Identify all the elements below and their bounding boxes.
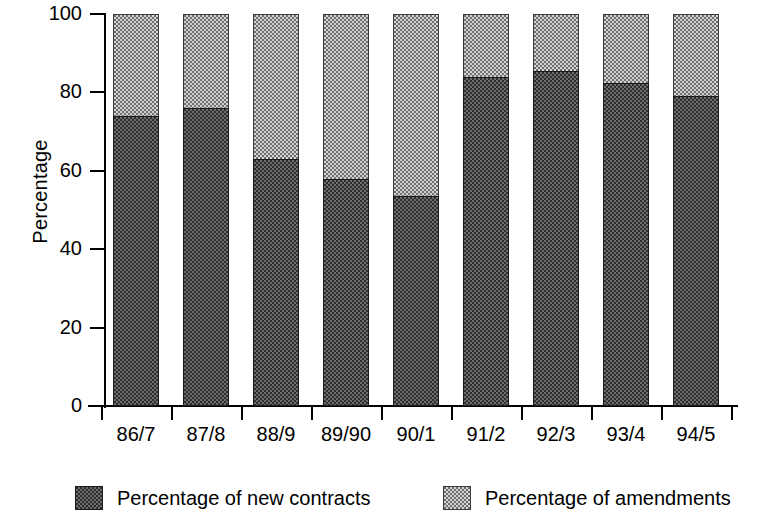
bar-segment-amendments[interactable] (463, 14, 509, 78)
y-tick-label: 40 (10, 238, 82, 258)
y-tick-label: 60 (10, 160, 82, 180)
bar-group[interactable] (463, 14, 509, 406)
legend-label-new-contracts: Percentage of new contracts (117, 487, 370, 510)
y-axis-title: Percentage (29, 92, 52, 292)
y-tick-mark (90, 170, 104, 172)
bar-segment-new-contracts[interactable] (323, 179, 369, 406)
bar-segment-new-contracts[interactable] (183, 108, 229, 406)
y-tick-label: 20 (10, 317, 82, 337)
y-tick-mark (90, 13, 104, 15)
legend-swatch-dark-icon (75, 486, 103, 510)
y-tick-label: 100 (10, 3, 82, 23)
bar-group[interactable] (673, 14, 719, 406)
x-tick-mark (591, 407, 593, 420)
bar-segment-amendments[interactable] (183, 14, 229, 109)
y-tick-mark (90, 248, 104, 250)
legend-swatch-light-icon (443, 486, 471, 510)
y-tick-label: 0 (10, 395, 82, 415)
bar-segment-new-contracts[interactable] (533, 71, 579, 406)
bar-group[interactable] (533, 14, 579, 406)
bar-group[interactable] (603, 14, 649, 406)
bar-segment-amendments[interactable] (253, 14, 299, 160)
bar-segment-amendments[interactable] (393, 14, 439, 197)
bar-segment-new-contracts[interactable] (253, 159, 299, 406)
legend-item-new-contracts[interactable]: Percentage of new contracts (75, 486, 370, 510)
legend-label-amendments: Percentage of amendments (485, 487, 731, 510)
bar-segment-new-contracts[interactable] (463, 77, 509, 406)
y-tick-mark (90, 327, 104, 329)
x-tick-mark (731, 407, 733, 420)
bar-group[interactable] (323, 14, 369, 406)
x-tick-mark (661, 407, 663, 420)
stacked-bar-chart: Percentage 020406080100 86/787/888/989/9… (0, 0, 768, 531)
bar-segment-amendments[interactable] (673, 14, 719, 97)
bar-group[interactable] (393, 14, 439, 406)
y-tick-mark (90, 91, 104, 93)
x-tick-label: 94/5 (646, 423, 746, 446)
x-tick-mark (311, 407, 313, 420)
bar-segment-amendments[interactable] (603, 14, 649, 84)
bar-segment-new-contracts[interactable] (603, 83, 649, 406)
y-axis-line (104, 13, 106, 408)
chart-legend: Percentage of new contracts Percentage o… (0, 478, 768, 528)
bar-segment-amendments[interactable] (533, 14, 579, 72)
bar-segment-amendments[interactable] (113, 14, 159, 117)
x-tick-mark (381, 407, 383, 420)
bar-segment-new-contracts[interactable] (113, 116, 159, 406)
bar-group[interactable] (253, 14, 299, 406)
bar-group[interactable] (113, 14, 159, 406)
y-tick-label: 80 (10, 81, 82, 101)
x-tick-mark (451, 407, 453, 420)
x-tick-mark (241, 407, 243, 420)
x-tick-mark (171, 407, 173, 420)
bar-segment-amendments[interactable] (323, 14, 369, 180)
bar-group[interactable] (183, 14, 229, 406)
bar-segment-new-contracts[interactable] (673, 96, 719, 406)
x-tick-mark (521, 407, 523, 420)
x-tick-mark (101, 407, 103, 420)
legend-item-amendments[interactable]: Percentage of amendments (443, 486, 731, 510)
bar-segment-new-contracts[interactable] (393, 196, 439, 406)
